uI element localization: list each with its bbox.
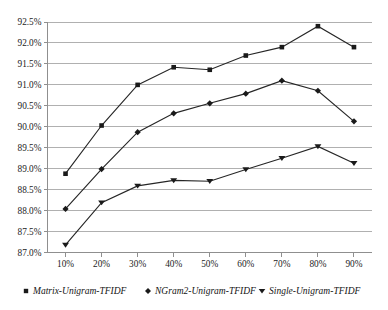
triangle-down-marker — [134, 184, 141, 189]
y-tick-label: 88.0% — [17, 206, 41, 216]
y-tick-label: 92.5% — [17, 17, 41, 27]
y-tick-label: 89.5% — [17, 143, 41, 153]
series-line — [66, 26, 354, 174]
x-tick-mark-group — [66, 253, 354, 257]
line-chart-canvas: 87.0%87.5%88.0%88.5%89.0%89.5%90.0%90.5%… — [0, 0, 388, 310]
x-tick-label: 10% — [57, 259, 74, 269]
square-marker — [316, 24, 321, 29]
x-tick-label: 40% — [165, 259, 182, 269]
x-tick-label: 50% — [201, 259, 218, 269]
x-tick-label: 80% — [309, 259, 326, 269]
y-axis-tick-labels: 87.0%87.5%88.0%88.5%89.0%89.5%90.0%90.5%… — [17, 17, 41, 258]
x-tick-label: 90% — [345, 259, 362, 269]
triangle-down-marker — [62, 243, 69, 248]
series-2 — [62, 78, 357, 212]
x-axis-tick-labels: 10%20%30%40%50%60%70%80%90% — [57, 259, 363, 269]
diamond-marker — [243, 91, 249, 97]
legend-triangle-down-icon — [259, 289, 266, 294]
legend-item-1[interactable]: Matrix-Unigram-TFIDF — [24, 286, 127, 296]
square-marker — [171, 65, 176, 70]
legend-item-2[interactable]: NGram2-Unigram-TFIDF — [145, 286, 256, 296]
y-tick-label: 91.0% — [17, 80, 41, 90]
square-marker — [280, 45, 285, 50]
series-1 — [63, 24, 356, 176]
x-tick-label: 30% — [129, 259, 146, 269]
diamond-marker — [279, 78, 285, 84]
square-marker — [352, 45, 357, 50]
diamond-marker — [171, 110, 177, 116]
legend-square-icon — [24, 289, 28, 293]
square-marker — [207, 67, 212, 72]
y-tick-label: 90.0% — [17, 122, 41, 132]
legend-label: NGram2-Unigram-TFIDF — [154, 286, 256, 296]
x-tick-label: 20% — [93, 259, 110, 269]
legend-diamond-icon — [145, 288, 151, 294]
square-marker — [244, 53, 249, 58]
y-tick-label: 88.5% — [17, 185, 41, 195]
gridline-group — [48, 22, 373, 232]
y-tick-label: 89.0% — [17, 164, 41, 174]
chart-figure: 87.0%87.5%88.0%88.5%89.0%89.5%90.0%90.5%… — [0, 0, 388, 310]
legend-item-3[interactable]: Single-Unigram-TFIDF — [259, 286, 361, 296]
legend-label: Single-Unigram-TFIDF — [269, 286, 360, 296]
square-marker — [135, 83, 140, 88]
triangle-down-marker — [351, 161, 358, 166]
data-series-group — [62, 24, 357, 248]
square-marker — [99, 123, 104, 128]
square-marker — [63, 171, 68, 176]
x-tick-label: 60% — [237, 259, 254, 269]
chart-legend: Matrix-Unigram-TFIDFNGram2-Unigram-TFIDF… — [24, 286, 361, 296]
y-tick-label: 91.5% — [17, 59, 41, 69]
y-tick-label: 90.5% — [17, 101, 41, 111]
y-tick-label: 92.0% — [17, 38, 41, 48]
y-tick-label: 87.5% — [17, 227, 41, 237]
series-3 — [62, 144, 357, 247]
legend-label: Matrix-Unigram-TFIDF — [32, 286, 127, 296]
y-tick-label: 87.0% — [17, 248, 41, 258]
x-tick-label: 70% — [273, 259, 290, 269]
